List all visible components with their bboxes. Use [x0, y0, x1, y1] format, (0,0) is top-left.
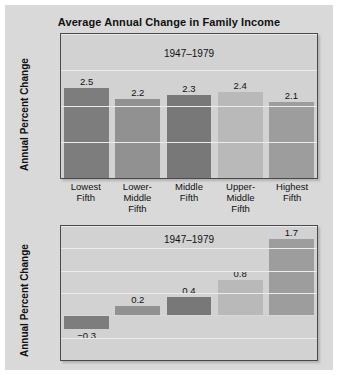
- bar[interactable]: [218, 280, 263, 316]
- gridline: [61, 226, 317, 227]
- bar-value-label: 0.4: [167, 285, 212, 296]
- page-title: Average Annual Change in Family Income: [5, 16, 333, 28]
- x-axis-category-line: Fifth: [61, 192, 110, 203]
- bar-value-label: 0.2: [115, 294, 160, 305]
- gridline: [61, 293, 317, 294]
- bar[interactable]: [64, 88, 109, 178]
- x-axis-category-line: Lower-: [113, 181, 162, 192]
- bar[interactable]: [115, 99, 160, 178]
- chart-bottom: Annual Percent Change 1947–1979 −0.30.20…: [5, 211, 333, 369]
- x-axis-category-line: Fifth: [164, 192, 213, 203]
- plot-area-top: 1947–1979 2.52.22.32.42.1 01234: [60, 33, 318, 179]
- figure-canvas: Average Annual Change in Family Income A…: [0, 0, 338, 375]
- gridline: [61, 70, 317, 71]
- bar-value-label: 2.1: [269, 90, 314, 101]
- bar[interactable]: [218, 92, 263, 178]
- x-axis-category-label: HighestFifth: [268, 181, 317, 214]
- plot-area-bottom: 1947–1979 −0.30.20.40.81.7 −1.0−0.50.00.…: [60, 225, 318, 361]
- bar[interactable]: [269, 239, 314, 315]
- x-axis-category-line: Fifth: [268, 192, 317, 203]
- bar[interactable]: [167, 297, 212, 315]
- gridline: [61, 338, 317, 339]
- gridline: [61, 315, 317, 316]
- bar[interactable]: [115, 306, 160, 315]
- gridline: [61, 106, 317, 107]
- x-axis-category-line: Middle: [164, 181, 213, 192]
- x-axis-category-label: MiddleFifth: [164, 181, 213, 214]
- y-axis-label-bottom: Annual Percent Change: [19, 244, 30, 357]
- x-axis-category-line: Lowest: [61, 181, 110, 192]
- x-axis-category-line: Highest: [268, 181, 317, 192]
- bar-value-label: −0.3: [64, 330, 109, 341]
- bar[interactable]: [269, 102, 314, 178]
- y-axis-label-top: Annual Percent Change: [19, 58, 30, 171]
- bar-value-label: 2.4: [218, 80, 263, 91]
- x-axis-category-line: Upper-: [216, 181, 265, 192]
- bar-value-label: 0.8: [218, 268, 263, 279]
- x-axis-category-label: Upper-Middle Fifth: [216, 181, 265, 214]
- gridline: [61, 248, 317, 249]
- bar[interactable]: [64, 315, 109, 328]
- x-axis-category-label: Lower-Middle Fifth: [113, 181, 162, 214]
- x-axis-category-label: LowestFifth: [61, 181, 110, 214]
- gridline: [61, 142, 317, 143]
- bar-value-label: 2.5: [64, 76, 109, 87]
- gridline: [61, 34, 317, 35]
- bar-value-label: 2.3: [167, 83, 212, 94]
- bar[interactable]: [167, 95, 212, 178]
- chart-top: Average Annual Change in Family Income A…: [5, 11, 333, 207]
- bar-value-label: 2.2: [115, 87, 160, 98]
- x-axis-labels: LowestFifthLower-Middle FifthMiddleFifth…: [60, 181, 318, 214]
- gridline: [61, 271, 317, 272]
- figure-page: Average Annual Change in Family Income A…: [5, 5, 333, 370]
- bar-value-label: 1.7: [269, 227, 314, 238]
